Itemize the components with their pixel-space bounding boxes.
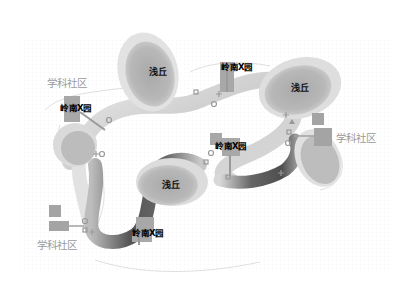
hill-label-3: 浅丘 (162, 181, 180, 190)
garden-label-2: 岭南X园 (221, 63, 253, 72)
hill-label-2: 浅丘 (291, 84, 309, 93)
community-label-1: 学科社区 (47, 78, 87, 89)
garden-label-1: 岭南X园 (60, 104, 92, 113)
community-label-2: 学科社区 (336, 133, 376, 144)
diagram-canvas (0, 0, 403, 298)
community-label-3: 学科社区 (37, 240, 77, 251)
landscape-diagram: 浅丘 浅丘 浅丘 岭南X园 岭南X园 岭南X园 岭南X园 学科社区 学科社区 学… (0, 0, 403, 298)
hill-5-shape (53, 123, 97, 167)
hill-label-1: 浅丘 (149, 68, 167, 77)
garden-label-3: 岭南X园 (215, 142, 247, 151)
garden-label-4: 岭南X园 (132, 229, 164, 238)
